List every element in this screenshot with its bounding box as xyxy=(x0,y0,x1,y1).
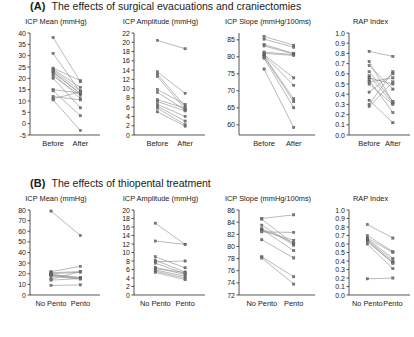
series-subject-2 xyxy=(154,240,186,246)
subplot-a-1: ICP Amplitude (mmHg)0246810121416182022B… xyxy=(108,16,213,155)
y-tick-label: 0.7 xyxy=(335,232,345,239)
y-tick-label: 6 xyxy=(126,104,130,111)
series-subject-8 xyxy=(263,54,295,86)
y-tick-label: 0.6 xyxy=(335,70,345,77)
series-subject-6 xyxy=(366,239,394,263)
y-tick-label: 0.4 xyxy=(335,258,345,265)
y-tick-label: 65 xyxy=(227,104,235,111)
subplot-canvas: 7274767880828486No PentoPento xyxy=(213,204,323,315)
y-tick-label: 50 xyxy=(18,238,26,245)
panel-b-header: (B) The effects of thiopental treatment xyxy=(0,177,414,193)
subplot-a-2: ICP Slope (mmHg/100ms)606570758085Before… xyxy=(213,16,323,155)
y-tick-label: 0.5 xyxy=(335,81,345,88)
subplot-title: ICP Amplitude (mmHg) xyxy=(108,193,213,204)
y-tick-label: 40 xyxy=(18,249,26,256)
y-tick-label: 0.9 xyxy=(335,40,345,47)
series-subject-5 xyxy=(368,75,394,105)
x-category-label: Pento xyxy=(175,299,194,308)
subplot-canvas: 02468101214161820No PentoPento xyxy=(108,204,213,315)
series-subject-10 xyxy=(263,56,295,103)
y-tick-label: 0.2 xyxy=(335,111,345,118)
y-tick-label: 70 xyxy=(18,217,26,224)
x-category-label: No Pento xyxy=(246,299,277,308)
y-tick-label: 76 xyxy=(227,267,235,274)
series-subject-1 xyxy=(50,210,82,237)
y-tick-label: 80 xyxy=(227,53,235,60)
series-subject-7 xyxy=(52,72,82,95)
y-tick-label: 0.3 xyxy=(335,101,345,108)
y-tick-label: 84 xyxy=(227,219,235,226)
x-category-label: After xyxy=(73,139,89,148)
x-category-label: No Pento xyxy=(352,299,383,308)
y-tick-label: 0.1 xyxy=(335,283,345,290)
subplot-title: ICP Mean (mmHg) xyxy=(4,16,108,27)
y-tick-label: 0.0 xyxy=(335,132,345,139)
series-subject-5 xyxy=(366,239,394,263)
y-tick-label: 20 xyxy=(122,39,130,46)
subplot-canvas: 606570758085BeforeAfter xyxy=(213,27,323,155)
y-tick-label: 6 xyxy=(126,266,130,273)
y-tick-label: 0.8 xyxy=(335,50,345,57)
x-category-label: Pento xyxy=(383,299,402,308)
y-tick-label: 70 xyxy=(227,87,235,94)
y-tick-label: 60 xyxy=(227,121,235,128)
series-subject-9 xyxy=(261,256,295,278)
figure-root: (A) The effects of surgical evacuations … xyxy=(0,0,414,337)
y-tick-label: 10 xyxy=(122,85,130,92)
subplot-title: ICP Slope (mmHg/100ms) xyxy=(213,193,323,204)
subplot-canvas: 0.00.10.20.30.40.50.60.70.80.91.0No Pent… xyxy=(323,204,414,315)
y-tick-label: 20 xyxy=(18,75,26,82)
series-subject-2 xyxy=(156,71,186,95)
subplot-b-1: ICP Amplitude (mmHg)02468101214161820No … xyxy=(108,193,213,315)
y-tick-label: 0.7 xyxy=(335,60,345,67)
series-subject-9 xyxy=(263,55,295,100)
x-category-label: After xyxy=(385,139,401,148)
panel-a: (A) The effects of surgical evacuations … xyxy=(0,0,414,177)
x-category-label: Before xyxy=(42,139,64,148)
series-subject-8 xyxy=(261,239,295,260)
y-tick-label: 20 xyxy=(122,207,130,214)
y-tick-label: 14 xyxy=(122,232,130,239)
subplot-canvas: 0246810121416182022BeforeAfter xyxy=(108,27,213,155)
x-category-label: Before xyxy=(358,139,380,148)
y-tick-label: 0 xyxy=(22,120,26,127)
y-tick-label: 4 xyxy=(126,275,130,282)
y-tick-label: 10 xyxy=(122,249,130,256)
y-tick-label: 0.6 xyxy=(335,241,345,248)
series-subject-1 xyxy=(156,39,186,50)
subplot-canvas: 0.00.10.20.30.40.50.60.70.80.91.0BeforeA… xyxy=(323,27,414,155)
y-tick-label: 75 xyxy=(227,70,235,77)
series-subject-1 xyxy=(263,35,295,46)
x-category-label: After xyxy=(177,139,193,148)
y-tick-label: 0.8 xyxy=(335,224,345,231)
panel-b-title: The effects of thiopental treatment xyxy=(52,177,211,189)
subplot-a-0: ICP Mean (mmHg)-50510152025303540BeforeA… xyxy=(4,16,108,155)
y-tick-label: 4 xyxy=(126,113,130,120)
y-tick-label: 5 xyxy=(22,109,26,116)
y-tick-label: 18 xyxy=(122,48,130,55)
y-tick-label: 14 xyxy=(122,67,130,74)
x-category-label: No Pento xyxy=(140,299,171,308)
panel-a-letter: (A) xyxy=(30,0,46,12)
y-tick-label: 30 xyxy=(18,260,26,267)
series-subject-1 xyxy=(366,223,394,239)
y-tick-label: 12 xyxy=(122,76,130,83)
x-category-label: Pento xyxy=(71,299,90,308)
y-tick-label: 78 xyxy=(227,255,235,262)
subplot-canvas: -50510152025303540BeforeAfter xyxy=(4,27,108,155)
y-tick-label: 8 xyxy=(126,258,130,265)
x-category-label: Before xyxy=(253,139,275,148)
y-tick-label: 0.3 xyxy=(335,266,345,273)
y-tick-label: 0 xyxy=(126,292,130,299)
series-subject-13 xyxy=(368,81,394,108)
y-tick-label: 74 xyxy=(227,279,235,286)
subplot-title: ICP Amplitude (mmHg) xyxy=(108,16,213,27)
y-tick-label: 85 xyxy=(227,36,235,43)
series-subject-11 xyxy=(263,57,295,109)
y-tick-label: 60 xyxy=(18,228,26,235)
series-subject-1 xyxy=(52,36,82,83)
y-tick-label: 30 xyxy=(18,52,26,59)
series-subject-7 xyxy=(366,240,394,264)
y-tick-label: 0.5 xyxy=(335,249,345,256)
y-tick-label: 2 xyxy=(126,283,130,290)
